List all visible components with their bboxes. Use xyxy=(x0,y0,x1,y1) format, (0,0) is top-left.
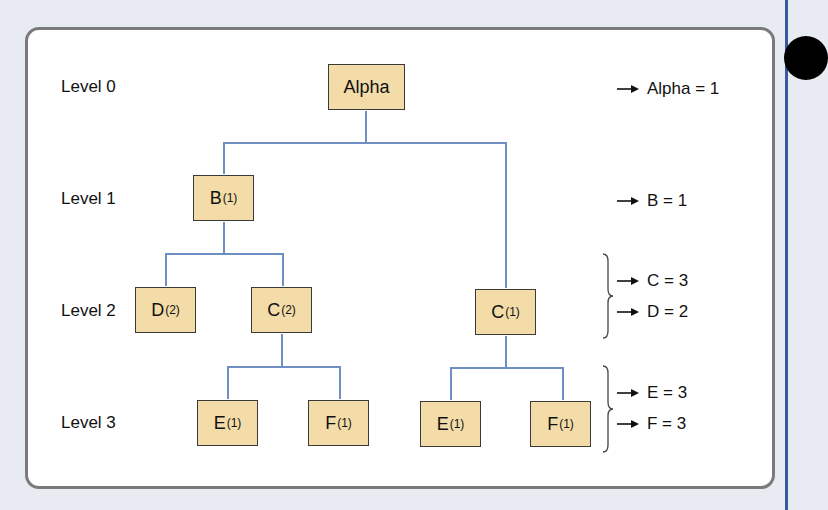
result-f: F = 3 xyxy=(617,414,686,434)
arrow-right-icon xyxy=(617,84,639,94)
connector-level3-right-bar xyxy=(450,367,564,369)
result-text: C = 3 xyxy=(647,271,688,291)
arrow-right-icon xyxy=(617,196,639,206)
node-c-right: C(1) xyxy=(475,289,536,335)
connector-alpha-down xyxy=(365,111,367,144)
result-text: Alpha = 1 xyxy=(647,79,719,99)
node-label: Alpha xyxy=(343,77,389,98)
result-c: C = 3 xyxy=(617,271,688,291)
result-d: D = 2 xyxy=(617,302,688,322)
node-label: F xyxy=(325,413,336,434)
connector-to-e-right xyxy=(450,367,452,400)
page-edge-line xyxy=(785,0,788,510)
level-3-label: Level 3 xyxy=(61,413,116,433)
connector-to-e-left xyxy=(227,366,229,399)
result-e: E = 3 xyxy=(617,383,687,403)
connector-to-d xyxy=(165,253,167,286)
node-label: E xyxy=(214,413,226,434)
node-count: (1) xyxy=(223,191,238,205)
node-count: (2) xyxy=(165,303,180,317)
node-count: (1) xyxy=(450,417,465,431)
connector-to-c-right xyxy=(505,142,507,288)
node-label: B xyxy=(210,188,222,209)
arrow-right-icon xyxy=(617,419,639,429)
level-0-label: Level 0 xyxy=(61,77,116,97)
node-alpha: Alpha xyxy=(328,64,405,110)
node-f-right: F(1) xyxy=(530,401,591,447)
level-1-label: Level 1 xyxy=(61,189,116,209)
connector-level1-bar xyxy=(223,142,507,144)
node-count: (2) xyxy=(281,303,296,317)
result-alpha: Alpha = 1 xyxy=(617,79,719,99)
arrow-right-icon xyxy=(617,388,639,398)
arrow-right-icon xyxy=(617,276,639,286)
connector-to-f-left xyxy=(339,366,341,399)
page-edge-dot xyxy=(784,36,828,80)
node-label: D xyxy=(151,300,164,321)
node-label: E xyxy=(437,414,449,435)
node-c-left: C(2) xyxy=(251,287,312,333)
node-count: (1) xyxy=(505,305,520,319)
node-count: (1) xyxy=(559,417,574,431)
connector-to-b xyxy=(223,142,225,174)
result-text: E = 3 xyxy=(647,383,687,403)
connector-to-c-left xyxy=(282,253,284,286)
connector-c-left-down xyxy=(281,334,283,367)
connector-b-down xyxy=(223,222,225,254)
node-label: F xyxy=(547,414,558,435)
result-text: B = 1 xyxy=(647,191,687,211)
level-2-label: Level 2 xyxy=(61,301,116,321)
brace-level3-icon xyxy=(600,365,616,453)
connector-level3-left-bar xyxy=(227,366,341,368)
arrow-right-icon xyxy=(617,307,639,317)
node-count: (1) xyxy=(227,416,242,430)
node-label: C xyxy=(491,302,504,323)
connector-to-f-right xyxy=(562,367,564,400)
node-e-right: E(1) xyxy=(420,401,481,447)
connector-level2-bar xyxy=(165,253,284,255)
result-text: F = 3 xyxy=(647,414,686,434)
result-text: D = 2 xyxy=(647,302,688,322)
result-b: B = 1 xyxy=(617,191,687,211)
node-count: (1) xyxy=(337,416,352,430)
node-b: B(1) xyxy=(193,175,254,221)
node-f-left: F(1) xyxy=(308,400,369,446)
node-e-left: E(1) xyxy=(197,400,258,446)
connector-c-right-down xyxy=(505,336,507,368)
brace-level2-icon xyxy=(600,253,616,339)
node-d: D(2) xyxy=(135,287,196,333)
node-label: C xyxy=(267,300,280,321)
